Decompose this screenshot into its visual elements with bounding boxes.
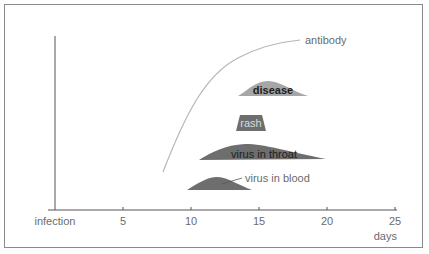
rash-label: rash bbox=[240, 117, 261, 129]
tick-label-25: 25 bbox=[389, 215, 401, 227]
disease-label: disease bbox=[253, 84, 293, 96]
antibody-label: antibody bbox=[305, 34, 347, 46]
tick-label-15: 15 bbox=[253, 215, 265, 227]
tick-label-infection: infection bbox=[35, 215, 76, 227]
tick-label-20: 20 bbox=[321, 215, 333, 227]
virus-blood-label: virus in blood bbox=[245, 172, 310, 184]
virus-throat-label: virus in throat bbox=[231, 148, 297, 160]
tick-label-5: 5 bbox=[120, 215, 126, 227]
x-axis-unit: days bbox=[374, 230, 398, 242]
chart-svg: infection 5 10 15 20 25 days antibody di… bbox=[0, 0, 429, 254]
virus-blood-band bbox=[187, 177, 252, 190]
tick-label-10: 10 bbox=[185, 215, 197, 227]
